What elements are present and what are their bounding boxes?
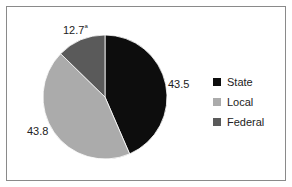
legend: State Local Federal bbox=[213, 72, 264, 132]
label-federal-value: 12.7 bbox=[63, 24, 84, 36]
label-federal: 12.7a bbox=[63, 24, 88, 36]
label-local: 43.8 bbox=[27, 125, 48, 137]
legend-swatch-state bbox=[213, 78, 221, 86]
legend-label-federal: Federal bbox=[227, 116, 264, 128]
label-state: 43.5 bbox=[168, 78, 189, 90]
legend-label-local: Local bbox=[227, 96, 253, 108]
legend-swatch-local bbox=[213, 98, 221, 106]
legend-item-state: State bbox=[213, 72, 264, 92]
legend-swatch-federal bbox=[213, 118, 221, 126]
legend-label-state: State bbox=[227, 76, 253, 88]
legend-item-federal: Federal bbox=[213, 112, 264, 132]
legend-item-local: Local bbox=[213, 92, 264, 112]
footnote-marker: a bbox=[84, 23, 87, 29]
